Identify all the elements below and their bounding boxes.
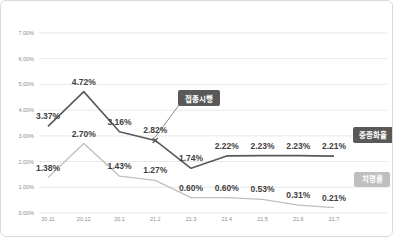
data-label: 2.82% <box>143 125 168 135</box>
x-axis-tick-label: 21.6 <box>293 216 304 222</box>
data-label: 2.23% <box>286 141 311 151</box>
annotation-badge-label: 접종시행 <box>185 94 213 104</box>
data-label: 0.21% <box>322 193 347 203</box>
x-axis-tick-label: 21.4 <box>221 216 232 222</box>
data-label: 2.22% <box>215 141 240 151</box>
x-axis-tick-label: 21.3 <box>186 216 197 222</box>
data-label: 0.60% <box>215 183 240 193</box>
data-label: 1.38% <box>36 163 61 173</box>
y-axis-tick-label: 3.00% <box>18 133 34 139</box>
y-axis-tick-label: 5.00% <box>18 81 34 87</box>
y-axis-tick-label: 1.00% <box>18 184 34 190</box>
x-axis-tick-label: 20.1 <box>114 216 125 222</box>
y-axis-tick-label: 4.00% <box>18 107 34 113</box>
x-axis-tick-label: 21.5 <box>257 216 268 222</box>
data-label: 4.72% <box>72 77 97 87</box>
data-label: 2.21% <box>322 141 347 151</box>
data-label: 1.74% <box>179 153 204 163</box>
data-label: 2.23% <box>250 141 275 151</box>
y-axis-tick-label: 0.00% <box>18 210 34 216</box>
chart-frame: 0.00%1.00%2.00%3.00%4.00%5.00%6.00%7.00%… <box>0 0 393 237</box>
series-badge-label: 중증화율 <box>359 130 387 140</box>
x-axis-tick-label: 21.2 <box>150 216 161 222</box>
y-axis-tick-label: 6.00% <box>18 56 34 62</box>
data-label: 1.27% <box>143 165 168 175</box>
x-axis-tick-label: 20.12 <box>77 216 91 222</box>
data-label: 0.53% <box>250 184 275 194</box>
series-badge-label: 치명률 <box>362 174 383 184</box>
y-axis-tick-label: 7.00% <box>18 30 34 36</box>
data-label: 2.70% <box>72 129 97 139</box>
line-chart: 0.00%1.00%2.00%3.00%4.00%5.00%6.00%7.00%… <box>1 1 393 237</box>
x-axis-tick-label: 21.7 <box>329 216 340 222</box>
data-label: 0.60% <box>179 183 204 193</box>
data-label: 3.16% <box>107 117 132 127</box>
data-label: 0.31% <box>286 190 311 200</box>
y-axis-tick-label: 2.00% <box>18 159 34 165</box>
data-label: 1.43% <box>107 161 132 171</box>
x-axis-tick-label: 20.11 <box>41 216 54 222</box>
data-label: 3.37% <box>36 111 61 121</box>
